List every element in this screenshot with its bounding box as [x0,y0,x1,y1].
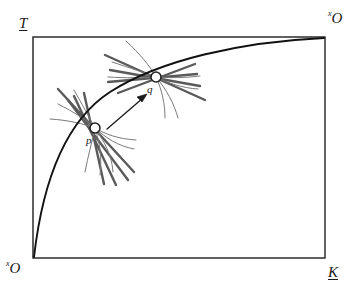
figure-page: T xO xO K p q [0,0,355,300]
point-q-marker [151,72,161,82]
axis-label-top-right-superscript: x [328,9,332,18]
axis-label-bottom-left-superscript: x [6,259,10,268]
axis-label-bottom-left: xO [6,261,20,276]
transition-arrow [107,94,147,129]
point-label-q: q [147,84,153,95]
point-label-p: p [86,135,92,146]
diagram-canvas [0,0,355,300]
axis-label-top-left: T [19,16,27,31]
axis-label-top-right: xO [328,11,342,26]
axis-label-top-right-base: O [332,10,343,26]
axis-label-bottom-right: K [328,265,338,280]
point-p-marker [90,123,100,133]
axis-label-bottom-left-base: O [10,260,21,276]
